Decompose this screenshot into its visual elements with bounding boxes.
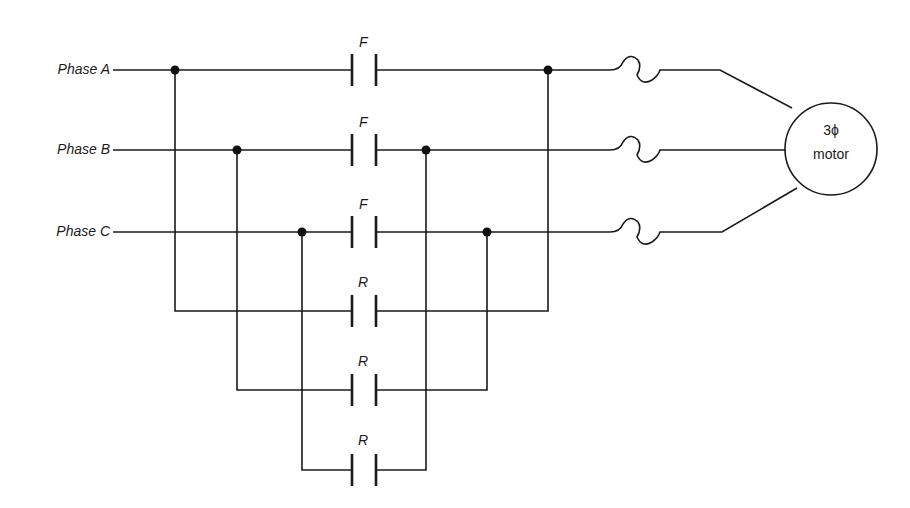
reverse-contact-label-2: R xyxy=(358,353,368,369)
motor-label: motor xyxy=(791,146,871,162)
phase-b-line xyxy=(113,136,786,162)
reverse-contact-label-3: R xyxy=(358,432,368,448)
phase-a-line xyxy=(113,56,792,108)
forward-contact-label-a: F xyxy=(359,34,368,50)
phase-a-label: Phase A xyxy=(0,61,110,77)
schematic-canvas xyxy=(0,0,910,508)
forward-contact-label-b: F xyxy=(359,114,368,130)
forward-contacts xyxy=(352,54,376,248)
motor-phase-label: 3ϕ xyxy=(791,122,871,138)
reverse-contact-label-1: R xyxy=(358,274,368,290)
phase-c-line xyxy=(113,188,797,244)
forward-contact-label-c: F xyxy=(359,196,368,212)
phase-b-label: Phase B xyxy=(0,141,110,157)
phase-c-label: Phase C xyxy=(0,223,110,239)
